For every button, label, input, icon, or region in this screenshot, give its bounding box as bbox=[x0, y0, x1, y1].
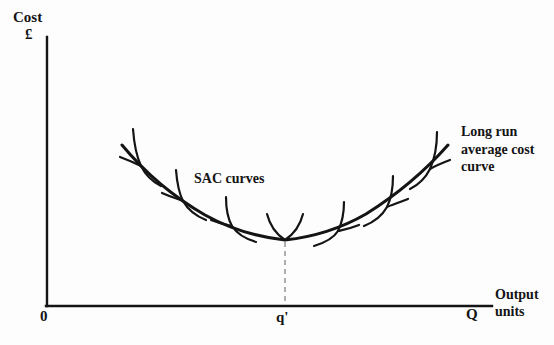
y-axis-label-currency: £ bbox=[25, 25, 33, 44]
lrac-label-line-1: Long run bbox=[461, 123, 534, 141]
sac-curve-7 bbox=[410, 132, 450, 189]
lrac-curve bbox=[122, 145, 448, 240]
sac-curve-3 bbox=[211, 197, 256, 242]
x-axis-label-units: units bbox=[495, 303, 525, 321]
x-axis-label-symbol: Q bbox=[466, 305, 478, 324]
y-axis-label-cost: Cost bbox=[13, 8, 42, 27]
lrac-curve-label: Long run average cost curve bbox=[461, 123, 534, 176]
lrac-label-line-2: average cost bbox=[461, 141, 534, 159]
figure-canvas: Cost £ 0 q' Q Output units SAC curves Lo… bbox=[0, 0, 554, 345]
origin-label: 0 bbox=[40, 307, 48, 326]
sac-curve-5 bbox=[314, 202, 359, 246]
x-axis-label-output: Output bbox=[495, 286, 539, 304]
sac-curves-label: SAC curves bbox=[194, 170, 264, 188]
sac-curve-4 bbox=[267, 214, 303, 240]
lrac-label-line-3: curve bbox=[461, 158, 534, 176]
qprime-label: q' bbox=[276, 308, 289, 327]
